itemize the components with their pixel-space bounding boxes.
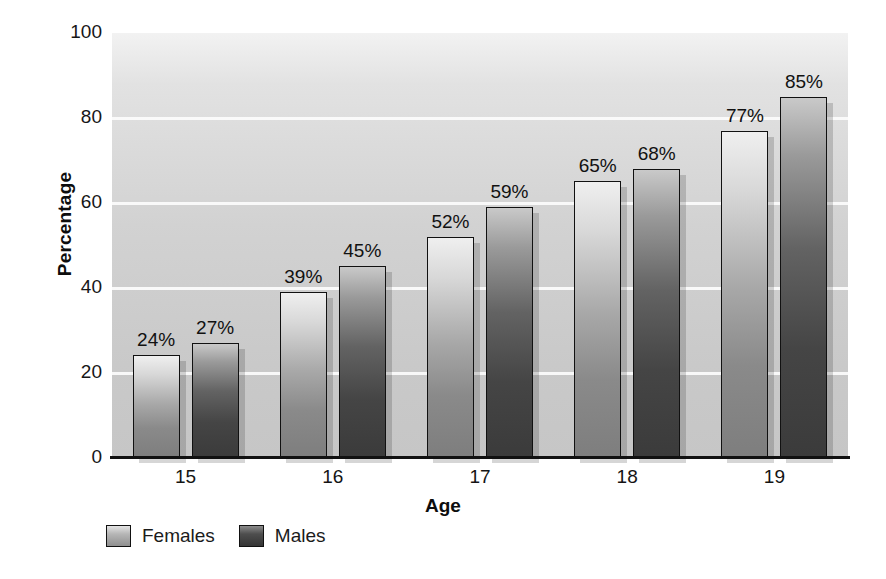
- x-tick-label-19: 19: [701, 466, 848, 488]
- bar-males-17[interactable]: [486, 207, 533, 457]
- bar-females-16[interactable]: [280, 292, 327, 457]
- legend-item-males[interactable]: Males: [239, 525, 326, 547]
- bar-value-label-males-18: 68%: [619, 143, 694, 165]
- bar-males-16[interactable]: [339, 266, 386, 457]
- bar-males-18[interactable]: [633, 169, 680, 457]
- bar-value-label-males-16: 45%: [325, 240, 400, 262]
- x-axis-title: Age: [0, 495, 886, 517]
- legend-swatch-females-icon: [106, 525, 131, 547]
- bar-value-label-males-17: 59%: [472, 181, 547, 203]
- bar-females-18[interactable]: [574, 181, 621, 457]
- bar-value-label-females-19: 77%: [707, 105, 782, 127]
- y-tick-label-100: 100: [30, 21, 102, 43]
- y-tick-label-0: 0: [30, 446, 102, 468]
- bar-value-label-males-19: 85%: [766, 71, 841, 93]
- bar-females-19[interactable]: [721, 131, 768, 457]
- bar-value-label-males-15: 27%: [178, 317, 253, 339]
- legend-swatch-males-icon: [239, 525, 264, 547]
- legend-label-males: Males: [275, 525, 326, 547]
- x-axis-line: [110, 456, 850, 459]
- y-axis: 100 80 60 40 20 0 Percentage: [30, 0, 102, 579]
- x-tick-label-16: 16: [259, 466, 406, 488]
- y-axis-title: Percentage: [54, 144, 76, 304]
- legend: Females Males: [106, 522, 350, 550]
- legend-item-females[interactable]: Females: [106, 525, 215, 547]
- bar-value-label-females-17: 52%: [413, 211, 488, 233]
- y-tick-label-20: 20: [30, 361, 102, 383]
- bar-males-15[interactable]: [192, 343, 239, 457]
- bar-females-17[interactable]: [427, 237, 474, 457]
- bar-males-19[interactable]: [780, 97, 827, 457]
- legend-label-females: Females: [142, 525, 215, 547]
- bar-value-label-females-16: 39%: [266, 266, 341, 288]
- bar-chart: 100 80 60 40 20 0 Percentage 24%27%39%45…: [0, 0, 886, 579]
- y-tick-label-80: 80: [30, 106, 102, 128]
- x-tick-label-17: 17: [406, 466, 553, 488]
- bar-females-15[interactable]: [133, 355, 180, 457]
- x-tick-label-15: 15: [112, 466, 259, 488]
- x-tick-label-18: 18: [554, 466, 701, 488]
